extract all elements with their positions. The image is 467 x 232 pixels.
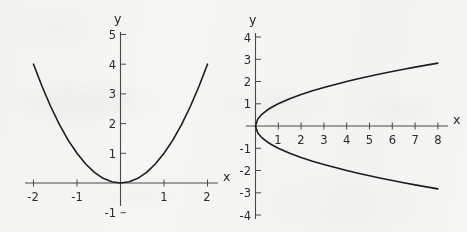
left-y-tick-label-neg1: -1 xyxy=(105,206,116,220)
left-y-tick-marks xyxy=(121,35,127,213)
left-y-tick-label-5: 5 xyxy=(109,28,116,42)
left-y-tick-label-2: 2 xyxy=(109,117,116,131)
right-y-tick-label-3: 3 xyxy=(244,53,251,67)
chart-left-parabola: -2 -1 1 2 5 4 3 2 1 -1 x y xyxy=(0,0,233,232)
left-y-axis-label: y xyxy=(114,11,122,26)
left-y-tick-label-3: 3 xyxy=(109,87,116,101)
left-x-tick-label-2: 2 xyxy=(203,190,210,204)
right-y-tick-label-1: 1 xyxy=(244,97,251,111)
left-x-axis-label: x xyxy=(223,169,230,184)
right-x-tick-label-8: 8 xyxy=(434,133,441,147)
chart-right-svg: 1 2 3 4 5 6 7 8 4 3 2 1 -1 -2 -3 -4 x y xyxy=(233,0,467,232)
right-y-tick-label-neg3: -3 xyxy=(240,186,251,200)
right-x-tick-label-4: 4 xyxy=(343,133,350,147)
right-y-tick-label-neg4: -4 xyxy=(240,209,251,223)
chart-left-svg: -2 -1 1 2 5 4 3 2 1 -1 x y xyxy=(0,0,233,232)
left-y-tick-label-4: 4 xyxy=(109,58,116,72)
right-x-tick-label-3: 3 xyxy=(320,133,327,147)
right-x-axis-label: x xyxy=(453,112,460,127)
right-x-tick-label-6: 6 xyxy=(389,133,396,147)
left-y-tick-label-1: 1 xyxy=(109,147,116,161)
left-x-tick-label-1: 1 xyxy=(160,190,167,204)
left-x-tick-label-neg1: -1 xyxy=(71,190,82,204)
right-x-tick-label-5: 5 xyxy=(366,133,373,147)
right-y-tick-label-2: 2 xyxy=(244,75,251,89)
right-y-tick-label-4: 4 xyxy=(244,31,251,45)
right-x-tick-label-2: 2 xyxy=(297,133,304,147)
right-curve-sqrt-positive xyxy=(256,63,438,126)
right-x-tick-label-7: 7 xyxy=(411,133,418,147)
right-y-axis-label: y xyxy=(249,12,257,27)
right-y-tick-label-neg2: -2 xyxy=(240,164,251,178)
right-x-tick-label-1: 1 xyxy=(274,133,281,147)
figure-page: -2 -1 1 2 5 4 3 2 1 -1 x y xyxy=(0,0,467,232)
chart-right-sideways-parabola: 1 2 3 4 5 6 7 8 4 3 2 1 -1 -2 -3 -4 x y xyxy=(233,0,467,232)
left-x-tick-label-neg2: -2 xyxy=(27,190,38,204)
right-y-tick-label-neg1: -1 xyxy=(240,142,251,156)
